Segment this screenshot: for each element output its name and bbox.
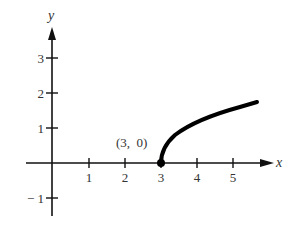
y-axis-label: y [46,8,55,23]
x-tick-label-4: 4 [194,170,201,185]
point-label: (3, 0) [116,135,147,150]
y-tick-label-minus-1: − 1 [27,191,44,206]
x-axis-label: x [275,155,283,170]
x-tick-label-2: 2 [122,170,129,185]
y-tick-label-2: 2 [38,86,45,101]
y-axis-arrow-icon [48,27,56,40]
x-axis-arrow-icon [260,159,274,167]
x-tick-label-1: 1 [86,170,93,185]
y-tick-label-3: 3 [38,51,45,66]
graph-canvas: x y 1 2 3 4 5 3 2 1 − 1 (3, 0) [0,0,298,241]
sqrt-curve [161,102,257,163]
x-tick-label-3: 3 [158,170,165,185]
x-tick-label-5: 5 [230,170,237,185]
point-marker [157,159,165,167]
y-tick-label-1: 1 [38,121,45,136]
